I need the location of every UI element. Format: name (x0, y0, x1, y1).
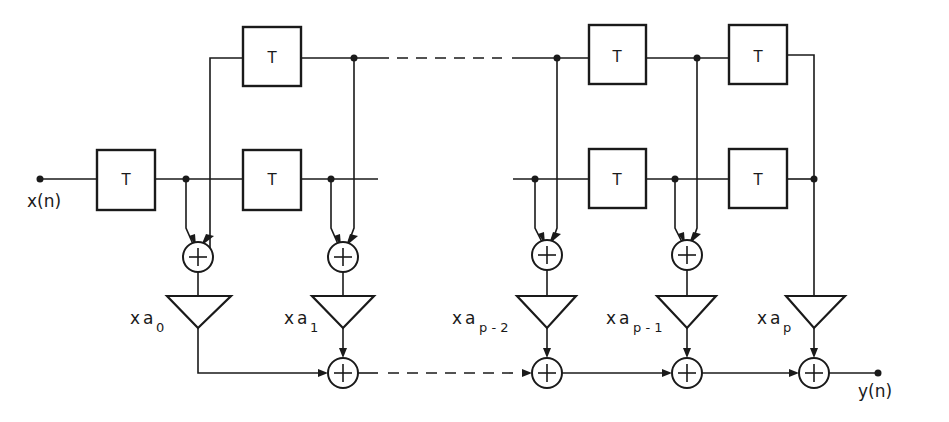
coef-label-a-p: xa p (757, 308, 791, 335)
svg-text:xa: xa (606, 308, 629, 328)
svg-text:T: T (266, 49, 277, 67)
adder-lower-p (799, 358, 829, 388)
svg-text:T: T (611, 48, 622, 66)
svg-text:p: p (783, 320, 791, 335)
svg-text:1: 1 (310, 320, 318, 335)
coef-label-a1: xa 1 (284, 308, 318, 335)
svg-text:xa: xa (130, 308, 153, 328)
delay-block-top-p: T (729, 25, 787, 84)
multiplier-a1 (312, 296, 374, 328)
adder-lower-p-2 (532, 358, 562, 388)
multiplier-a0 (167, 296, 231, 328)
coef-label-a-p-1: xa p - 1 (606, 308, 662, 335)
delay-block-top-1: T (243, 27, 301, 86)
svg-text:xa: xa (452, 308, 475, 328)
adder-upper-p-1 (672, 240, 702, 270)
delay-block-top-p-1: T (589, 25, 646, 84)
input-label: x(n) (27, 191, 61, 211)
svg-text:p - 2: p - 2 (479, 320, 508, 335)
delay-block-bottom-p: T (729, 149, 787, 208)
coef-label-a-p-2: xa p - 2 (452, 308, 508, 335)
svg-text:p - 1: p - 1 (633, 320, 662, 335)
input-terminal (37, 176, 44, 183)
adder-lower-p-1 (672, 358, 702, 388)
svg-text:T: T (752, 171, 763, 189)
delay-block-bottom-1: T (243, 150, 301, 210)
delay-block-bottom-p-1: T (589, 149, 646, 208)
svg-text:xa: xa (284, 308, 307, 328)
adder-upper-1 (328, 242, 358, 272)
filter-block-diagram: T T T T T T T (0, 0, 949, 422)
output-terminal (875, 370, 882, 377)
multiplier-a-p-2 (517, 296, 576, 328)
multiplier-a-p (786, 296, 845, 328)
svg-text:0: 0 (156, 320, 164, 335)
multiplier-a-p-1 (657, 296, 716, 328)
adder-lower-1 (328, 358, 358, 388)
svg-text:xa: xa (757, 308, 780, 328)
svg-text:T: T (752, 48, 763, 66)
svg-text:T: T (120, 171, 131, 189)
svg-text:T: T (266, 171, 277, 189)
delay-block-input: T (97, 150, 155, 210)
coef-label-a0: xa 0 (130, 308, 164, 335)
adder-upper-p-2 (532, 240, 562, 270)
output-label: y(n) (858, 381, 892, 401)
arrowheads (189, 232, 818, 377)
svg-text:T: T (611, 171, 622, 189)
adder-upper-0 (183, 242, 213, 272)
